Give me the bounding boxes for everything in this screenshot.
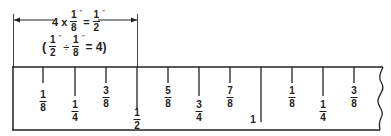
label-1-4: 14 — [72, 100, 79, 123]
label-3-8: 38 — [103, 86, 110, 109]
label-3-4: 34 — [196, 100, 203, 123]
label-1-2: 12 — [134, 108, 141, 131]
label-1-inch: 1 — [250, 114, 256, 125]
label-1-4-second: 14 — [320, 100, 327, 123]
label-1-8-second: 18 — [289, 86, 296, 109]
label-1-8: 18 — [40, 90, 47, 113]
label-5-8: 58 — [165, 86, 172, 109]
label-3-8-second: 38 — [351, 86, 358, 109]
label-7-8: 78 — [227, 86, 234, 109]
